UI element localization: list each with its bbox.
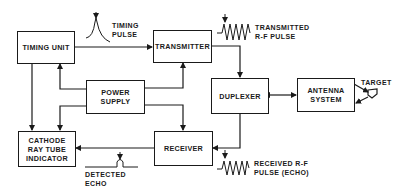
power-supply-label: POWER SUPPLY — [101, 88, 131, 106]
arrow-transmitter-to-duplexer — [211, 46, 240, 77]
crt-indicator-block: CATHODE RAY TUBE INDICATOR — [18, 131, 76, 167]
crt-indicator-label: CATHODE RAY TUBE INDICATOR — [26, 136, 68, 163]
duplexer-label: DUPLEXER — [219, 92, 261, 101]
power-supply-block: POWER SUPPLY — [86, 80, 145, 114]
transmitter-label: TRANSMITTER — [155, 42, 210, 51]
radar-block-diagram: TIMING UNIT TRANSMITTER POWER SUPPLY DUP… — [0, 0, 399, 193]
antenna-system-label: ANTENNA SYSTEM — [307, 86, 344, 104]
duplexer-block: DUPLEXER — [211, 78, 269, 114]
timing-pulse-label: TIMING PULSE — [112, 22, 139, 39]
arrow-power-to-transmitter — [144, 63, 183, 88]
receiver-block: RECEIVER — [154, 131, 213, 166]
transmitted-pulse-label: TRANSMITTED R-F PULSE — [255, 24, 310, 41]
transmitter-block: TRANSMITTER — [153, 30, 212, 63]
antenna-system-block: ANTENNA SYSTEM — [297, 78, 355, 112]
timing-unit-label: TIMING UNIT — [22, 43, 69, 52]
received-pulse-waveform — [217, 150, 249, 175]
arrow-duplexer-to-receiver — [213, 113, 240, 148]
detected-echo-waveform — [85, 152, 138, 167]
target-label: TARGET — [361, 79, 392, 88]
received-pulse-label: RECEIVED R-F PULSE (ECHO) — [254, 160, 309, 177]
arrow-power-to-timing — [60, 64, 86, 89]
arrow-target-to-antenna — [356, 97, 368, 103]
arrow-power-to-crt — [60, 106, 86, 130]
timing-unit-block: TIMING UNIT — [17, 31, 75, 64]
transmitted-pulse-waveform — [217, 14, 250, 40]
target-icon — [368, 89, 377, 98]
timing-pulse-waveform — [86, 12, 110, 42]
detected-echo-label: DETECTED ECHO — [85, 171, 126, 188]
receiver-label: RECEIVER — [164, 144, 203, 153]
arrow-power-to-receiver — [144, 105, 183, 130]
